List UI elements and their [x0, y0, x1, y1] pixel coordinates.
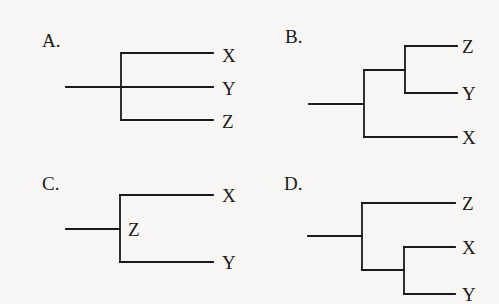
tree-panel-c: C.XYZ [42, 173, 236, 273]
phylogenetic-trees-figure: A.XYZB.ZYXC.XYZD.ZXY [0, 0, 499, 304]
internal-node-label: Z [128, 219, 140, 240]
leaf-label-z: Z [222, 111, 234, 132]
leaf-label-y: Y [462, 284, 476, 304]
leaf-label-y: Y [222, 252, 236, 273]
tree-panel-a: A.XYZ [42, 30, 236, 132]
leaf-label-x: X [222, 185, 236, 206]
leaf-label-x: X [462, 237, 476, 258]
panel-label: C. [42, 173, 59, 194]
leaf-label-z: Z [462, 36, 474, 57]
leaf-label-z: Z [462, 193, 474, 214]
leaf-label-x: X [222, 45, 236, 66]
leaf-label-y: Y [222, 78, 236, 99]
leaf-label-x: X [462, 127, 476, 148]
tree-panel-d: D.ZXY [284, 173, 476, 304]
panel-label: A. [42, 30, 60, 51]
tree-panel-b: B.ZYX [285, 26, 476, 148]
panel-label: B. [285, 26, 302, 47]
panel-label: D. [284, 173, 302, 194]
leaf-label-y: Y [462, 83, 476, 104]
